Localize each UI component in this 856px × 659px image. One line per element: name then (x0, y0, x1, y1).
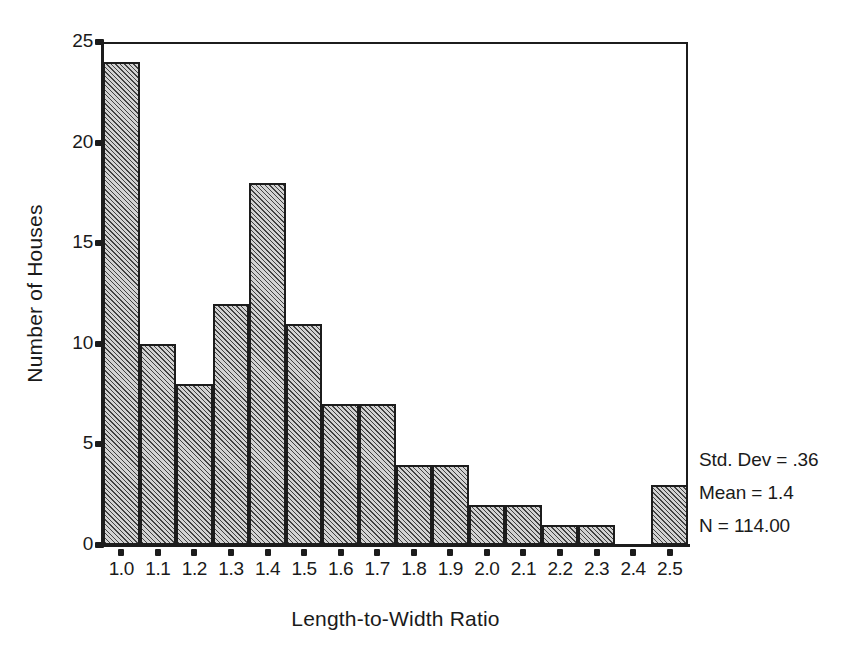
histogram-bar (213, 304, 250, 545)
stats-std-dev: Std. Dev = .36 (699, 443, 849, 476)
y-axis-tick-label: 15 (72, 231, 93, 253)
histogram-bar (249, 183, 286, 545)
stats-n: N = 114.00 (699, 509, 849, 542)
histogram-bar (432, 465, 469, 545)
y-axis-tick-label: 5 (83, 432, 93, 454)
x-axis-tick-mark (191, 549, 197, 556)
histogram-bar (469, 505, 506, 545)
y-axis-tick-label: 25 (72, 30, 93, 52)
histogram-bar (286, 324, 323, 545)
histogram-bar (505, 505, 542, 545)
histogram-bar (578, 525, 615, 545)
x-axis-tick-mark (155, 549, 161, 556)
x-axis-tick-mark (520, 549, 526, 556)
histogram-figure: Number of Houses 0510152025 1.01.11.21.3… (0, 0, 856, 659)
y-axis-tick-label: 0 (83, 533, 93, 555)
x-axis-tick-mark (411, 549, 417, 556)
histogram-bar (396, 465, 433, 545)
y-axis-tick-label: 10 (72, 332, 93, 354)
x-axis-tick-mark (228, 549, 234, 556)
x-axis-tick-mark (557, 549, 563, 556)
y-axis-tick-label: 20 (72, 131, 93, 153)
histogram-bar (140, 344, 177, 545)
x-axis-tick-mark (118, 549, 124, 556)
x-axis-tick-mark (594, 549, 600, 556)
histogram-bar (359, 404, 396, 545)
x-axis-tick-mark (667, 549, 673, 556)
x-axis-title: Length-to-Width Ratio (103, 607, 688, 631)
histogram-bar (103, 62, 140, 545)
x-axis-tick-mark (301, 549, 307, 556)
histogram-bar (542, 525, 579, 545)
bar-series (103, 42, 688, 545)
y-axis-title: Number of Houses (18, 42, 52, 545)
x-axis-tick-mark (447, 549, 453, 556)
histogram-bar (176, 384, 213, 545)
x-axis-tick-mark (484, 549, 490, 556)
x-axis-tick-mark (374, 549, 380, 556)
histogram-bar (322, 404, 359, 545)
x-axis-tick-mark (265, 549, 271, 556)
stats-mean: Mean = 1.4 (699, 476, 849, 509)
x-axis-tick-label: 2.5 (644, 558, 696, 580)
x-axis-tick-mark (630, 549, 636, 556)
stats-annotation: Std. Dev = .36 Mean = 1.4 N = 114.00 (699, 443, 849, 542)
histogram-bar (651, 485, 688, 545)
x-axis-tick-mark (338, 549, 344, 556)
